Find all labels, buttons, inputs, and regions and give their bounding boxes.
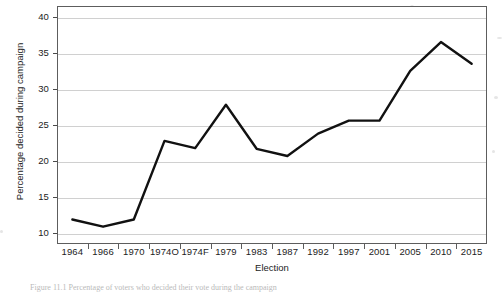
y-tick-label: 10 — [38, 228, 49, 238]
x-tick-label: 1974F — [180, 246, 211, 257]
x-tick-label: 1992 — [303, 246, 334, 257]
data-series-line — [57, 6, 487, 244]
figure-container: Percentage decided during campaign 10152… — [0, 0, 503, 292]
y-tick-label: 40 — [38, 12, 49, 22]
x-tick-label: 1987 — [272, 246, 303, 257]
x-axis-title: Election — [57, 262, 487, 273]
x-tick-label: 1983 — [241, 246, 272, 257]
scan-artifact — [492, 150, 495, 153]
x-tick-label: 2010 — [426, 246, 457, 257]
x-tick-label: 1997 — [333, 246, 364, 257]
x-tick-label: 2015 — [456, 246, 487, 257]
x-tick-label: 2001 — [364, 246, 395, 257]
y-tick-label: 30 — [38, 84, 49, 94]
y-tick-label: 20 — [38, 156, 49, 166]
figure-caption: Figure 11.1 Percentage of voters who dec… — [30, 283, 490, 292]
x-axis: 1964196619701974O1974F197919831987199219… — [57, 246, 487, 262]
scan-artifact — [494, 96, 498, 99]
x-tick-label: 2005 — [395, 246, 426, 257]
x-tick-label: 1964 — [57, 246, 88, 257]
y-tick-label: 25 — [38, 120, 49, 130]
x-tick-label: 1974O — [149, 246, 180, 257]
y-axis: Percentage decided during campaign 10152… — [0, 0, 57, 292]
x-tick-label: 1970 — [118, 246, 149, 257]
y-tick-label: 35 — [38, 48, 49, 58]
y-tick-label: 15 — [38, 192, 49, 202]
x-tick-label: 1966 — [88, 246, 119, 257]
y-axis-title: Percentage decided during campaign — [14, 37, 25, 207]
scan-artifact — [497, 37, 502, 39]
x-tick-label: 1979 — [211, 246, 242, 257]
